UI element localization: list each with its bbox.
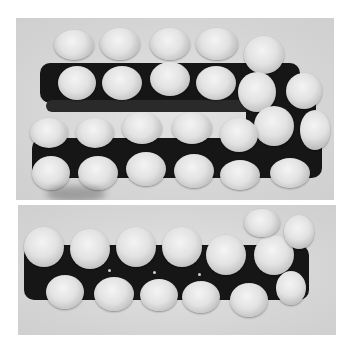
atom-sphere xyxy=(30,118,68,148)
photo-panel-top xyxy=(16,18,334,200)
atom-sphere xyxy=(196,28,238,60)
atom-sphere xyxy=(150,62,190,96)
atom-sphere xyxy=(122,112,162,144)
atom-sphere xyxy=(78,156,118,190)
atom-sphere xyxy=(270,158,310,188)
atom-sphere xyxy=(76,118,114,148)
atom-sphere xyxy=(94,277,134,311)
atom-sphere xyxy=(244,209,280,237)
atom-sphere xyxy=(140,279,178,311)
atom-sphere xyxy=(206,235,246,275)
atom-sphere xyxy=(182,281,220,313)
atom-sphere xyxy=(150,28,190,60)
atom-sphere xyxy=(220,160,260,190)
photo-panel-bottom xyxy=(18,205,336,335)
atom-sphere xyxy=(230,283,268,317)
model-shadow xyxy=(46,186,106,200)
atom-sphere xyxy=(254,106,294,146)
bond-dot xyxy=(153,271,156,274)
atom-sphere xyxy=(70,229,110,269)
atom-sphere xyxy=(162,227,202,267)
atom-sphere xyxy=(46,275,84,309)
atom-sphere xyxy=(196,66,236,100)
atom-sphere xyxy=(126,152,166,186)
bond-dot xyxy=(108,269,111,272)
atom-sphere xyxy=(174,154,214,188)
atom-sphere xyxy=(284,215,314,249)
atom-sphere xyxy=(300,110,330,150)
upper-chain-backbone-rear xyxy=(46,100,256,112)
atom-sphere xyxy=(244,36,284,74)
atom-sphere xyxy=(58,66,96,100)
atom-sphere xyxy=(286,73,322,109)
bond-dot xyxy=(198,273,201,276)
atom-sphere xyxy=(102,66,142,100)
atom-sphere xyxy=(276,271,306,305)
atom-sphere xyxy=(116,227,156,267)
atom-sphere xyxy=(100,28,140,60)
atom-sphere xyxy=(220,118,258,152)
atom-sphere xyxy=(24,227,64,267)
atom-sphere xyxy=(54,30,94,60)
atom-sphere xyxy=(172,112,212,144)
atom-sphere xyxy=(32,156,70,190)
